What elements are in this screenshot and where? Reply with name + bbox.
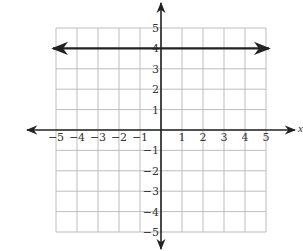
x-tick-label: −1: [132, 131, 148, 144]
y-tick-label: 5: [152, 22, 159, 35]
x-tick-label: 5: [263, 131, 270, 144]
y-tick-label: −5: [143, 226, 159, 239]
x-tick-label: 4: [242, 131, 249, 144]
y-tick-label: −4: [143, 206, 159, 219]
x-tick-label: −5: [48, 131, 64, 144]
y-tick-label: 2: [152, 83, 159, 96]
x-tick-label: −3: [90, 131, 106, 144]
x-tick-label: −4: [69, 131, 85, 144]
y-tick-label: −2: [143, 165, 159, 178]
x-tick-label: 1: [179, 131, 186, 144]
x-tick-label: 3: [221, 131, 228, 144]
x-tick-label: 2: [200, 131, 207, 144]
y-tick-label: 1: [152, 104, 159, 117]
y-tick-label: −3: [143, 185, 159, 198]
coordinate-plane: −5−4−3−2−112345−5−4−3−2−112345 x: [0, 0, 303, 251]
x-tick-label: −2: [111, 131, 127, 144]
y-tick-label: 3: [152, 63, 159, 76]
y-tick-label: −1: [143, 144, 159, 157]
x-axis-label: x: [297, 122, 303, 134]
